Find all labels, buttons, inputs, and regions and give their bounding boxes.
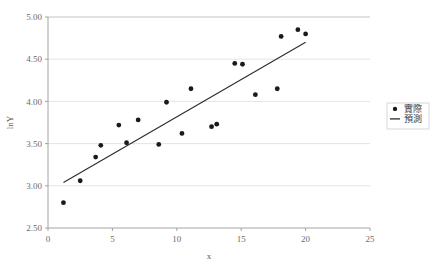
data-point — [98, 143, 103, 148]
x-tick-label: 20 — [301, 234, 311, 244]
y-tick-label: 4.00 — [26, 97, 42, 107]
data-point — [240, 62, 245, 67]
legend-label: 預測 — [404, 113, 422, 124]
data-point — [136, 118, 141, 123]
x-tick-label: 10 — [172, 234, 182, 244]
data-point — [209, 124, 214, 129]
data-point — [275, 86, 280, 91]
y-tick-label: 3.00 — [26, 181, 42, 191]
data-point — [189, 86, 194, 91]
x-tick-label: 15 — [237, 234, 247, 244]
chart-legend: 實際預測 — [387, 103, 429, 130]
axes — [48, 17, 370, 228]
x-tick-label: 25 — [366, 234, 376, 244]
data-point — [279, 34, 284, 39]
regression-line — [63, 42, 305, 182]
data-point — [156, 142, 161, 147]
x-tick-label: 5 — [110, 234, 115, 244]
data-series — [61, 27, 308, 205]
y-axis-tick-labels: 2.503.003.504.004.505.00 — [26, 12, 48, 233]
data-point — [303, 31, 308, 36]
data-point — [93, 155, 98, 160]
legend-label: 實際 — [404, 103, 422, 114]
data-point — [295, 27, 300, 32]
y-axis-title: lnY — [5, 115, 15, 129]
gridlines — [48, 17, 370, 186]
y-tick-label: 3.50 — [26, 139, 42, 149]
data-point — [180, 131, 185, 136]
chart-container: 2.503.003.504.004.505.00 0510152025 實際預測… — [0, 0, 433, 269]
data-point — [253, 92, 258, 97]
data-point — [214, 122, 219, 127]
scatter-plot: 2.503.003.504.004.505.00 0510152025 實際預測… — [0, 0, 433, 269]
data-point — [232, 61, 237, 66]
data-point — [61, 200, 66, 205]
data-point — [78, 178, 83, 183]
y-tick-label: 2.50 — [26, 223, 42, 233]
y-tick-label: 5.00 — [26, 12, 42, 22]
legend-marker-point — [393, 107, 397, 111]
data-point — [116, 123, 121, 128]
x-axis-title: x — [207, 251, 212, 261]
x-axis-tick-labels: 0510152025 — [46, 228, 375, 244]
y-tick-label: 4.50 — [26, 54, 42, 64]
data-point — [164, 100, 169, 105]
x-tick-label: 0 — [46, 234, 51, 244]
